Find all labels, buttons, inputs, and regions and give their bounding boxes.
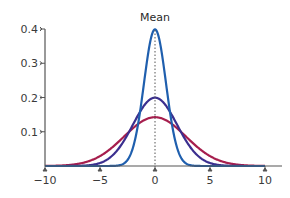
y-tick-label: 0.3 (21, 57, 39, 70)
y-tick-mark (40, 96, 45, 100)
y-tick-mark (40, 61, 45, 65)
y-tick-label: 0.1 (21, 126, 39, 139)
x-tick-label: 5 (207, 174, 214, 187)
axes-group (45, 29, 282, 166)
x-tick-mark (153, 166, 157, 171)
x-tick-label: 0 (152, 174, 159, 187)
x-ticks-group: −10−50510 (33, 166, 272, 187)
x-tick-label: 10 (258, 174, 272, 187)
x-tick-label: −5 (92, 174, 108, 187)
y-ticks-group: 0.10.20.30.4 (21, 23, 46, 139)
normal-distribution-chart: Mean 0.10.20.30.4 −10−50510 (0, 0, 290, 198)
x-tick-label: −10 (33, 174, 56, 187)
y-tick-label: 0.4 (21, 23, 39, 36)
y-tick-mark (40, 130, 45, 134)
mean-annotation: Mean (140, 11, 170, 24)
y-tick-mark (40, 27, 45, 31)
y-tick-label: 0.2 (21, 92, 39, 105)
